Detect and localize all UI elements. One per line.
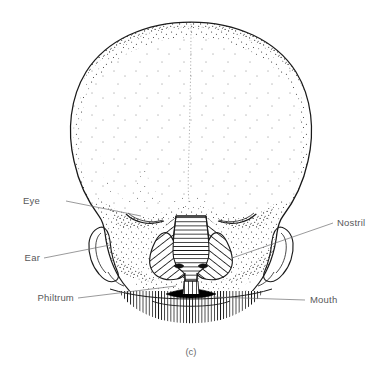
label-eye: Eye — [23, 195, 40, 206]
label-philtrum: Philtrum — [38, 292, 74, 303]
figure-container: Eye Ear Philtrum Nostril Mouth (c) — [0, 0, 383, 374]
anatomical-diagram: Eye Ear Philtrum Nostril Mouth (c) — [0, 0, 383, 374]
label-mouth: Mouth — [310, 294, 337, 305]
label-nostril: Nostril — [337, 217, 365, 228]
label-ear: Ear — [25, 252, 40, 263]
ear-right-helix-line — [276, 233, 286, 273]
leader-line-ear — [44, 245, 110, 258]
figure-caption: (c) — [185, 346, 196, 357]
ear-left-helix-line — [96, 233, 106, 273]
